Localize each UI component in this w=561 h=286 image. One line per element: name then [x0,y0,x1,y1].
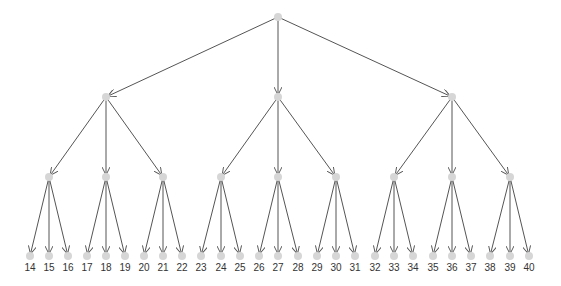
leaf-node-16 [64,252,72,260]
leaf-label: 36 [446,262,458,273]
edge-to-leaf-40 [510,177,529,254]
leaf-label: 30 [330,262,342,273]
leaf-label: 18 [100,262,112,273]
edge-to-leaf-25 [221,177,240,254]
leaf-label: 23 [195,262,207,273]
edge-to-leaf-37 [452,177,471,254]
leaf-label: 19 [119,262,131,273]
leaf-node-39 [506,252,514,260]
leaf-node-21 [159,252,167,260]
level2-node-4 [274,173,282,181]
leaf-node-29 [313,252,321,260]
leaf-label: 21 [157,262,169,273]
level2-node-2 [159,173,167,181]
edge-to-leaf-16 [49,177,68,254]
leaf-label: 31 [349,262,361,273]
edge-to-leaf-20 [144,177,163,254]
edge-to-leaf-35 [433,177,452,254]
edge-to-leaf-31 [336,177,355,254]
level2-node-8 [506,173,514,181]
leaf-label: 26 [253,262,265,273]
labels-group: 1415161718192021222324252627282930313233… [24,262,535,273]
leaf-node-15 [45,252,53,260]
leaf-node-23 [197,252,205,260]
edge-l1-to-l2-0 [50,97,106,175]
leaf-node-40 [525,252,533,260]
edge-root-to-l1-0 [108,17,278,96]
leaf-label: 20 [138,262,150,273]
edge-to-leaf-26 [259,177,278,254]
level2-node-7 [448,173,456,181]
level2-node-3 [217,173,225,181]
level2-node-1 [102,173,110,181]
edge-to-leaf-19 [106,177,125,254]
edge-root-to-l1-2 [278,17,450,96]
nodes-group [26,13,533,260]
leaf-node-36 [448,252,456,260]
leaf-node-19 [121,252,129,260]
leaf-label: 15 [43,262,55,273]
leaf-label: 37 [465,262,477,273]
edge-l1-to-l2-6 [395,97,452,175]
leaf-label: 39 [504,262,516,273]
edge-to-leaf-14 [30,177,49,254]
leaf-node-37 [467,252,475,260]
leaf-label: 17 [81,262,93,273]
edges-group [30,17,528,254]
edge-to-leaf-23 [201,177,221,254]
edge-to-leaf-34 [394,177,413,254]
level2-node-0 [45,173,53,181]
leaf-label: 27 [272,262,284,273]
leaf-label: 25 [234,262,246,273]
leaf-node-30 [332,252,340,260]
edge-l1-to-l2-2 [106,97,162,175]
edge-to-leaf-17 [87,177,106,254]
leaf-node-33 [390,252,398,260]
leaf-label: 34 [407,262,419,273]
level1-node-1 [274,93,282,101]
edge-to-leaf-38 [490,177,510,254]
leaf-node-34 [409,252,417,260]
leaf-label: 14 [24,262,36,273]
leaf-label: 33 [388,262,400,273]
leaf-node-22 [178,252,186,260]
edge-to-leaf-29 [317,177,336,254]
leaf-node-31 [351,252,359,260]
level1-node-0 [102,93,110,101]
leaf-node-38 [486,252,494,260]
edge-to-leaf-28 [278,177,298,254]
edge-to-leaf-32 [375,177,394,254]
leaf-node-26 [255,252,263,260]
edge-to-leaf-22 [163,177,182,254]
leaf-node-20 [140,252,148,260]
leaf-label: 40 [523,262,535,273]
leaf-node-18 [102,252,110,260]
leaf-label: 16 [62,262,74,273]
leaf-node-14 [26,252,34,260]
leaf-label: 24 [215,262,227,273]
leaf-node-24 [217,252,225,260]
edge-l1-to-l2-8 [452,97,509,175]
leaf-label: 22 [176,262,188,273]
leaf-node-25 [236,252,244,260]
level2-node-6 [390,173,398,181]
leaf-label: 32 [369,262,381,273]
leaf-label: 28 [292,262,304,273]
leaf-node-35 [429,252,437,260]
leaf-label: 29 [311,262,323,273]
level2-node-5 [332,173,340,181]
leaf-node-17 [83,252,91,260]
leaf-node-32 [371,252,379,260]
tree-diagram: 1415161718192021222324252627282930313233… [0,0,561,286]
leaf-label: 38 [484,262,496,273]
root-node [274,13,282,21]
edge-l1-to-l2-3 [222,97,278,175]
leaf-node-27 [274,252,282,260]
leaf-node-28 [294,252,302,260]
leaf-label: 35 [427,262,439,273]
level1-node-2 [448,93,456,101]
edge-l1-to-l2-5 [278,97,335,175]
